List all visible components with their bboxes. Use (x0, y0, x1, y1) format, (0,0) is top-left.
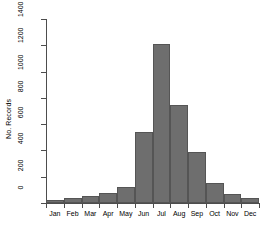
x-tick-label-oct: Oct (206, 210, 224, 217)
x-tick-label-sep: Sep (188, 210, 206, 217)
y-tick-label-text: 1400 (15, 0, 25, 39)
y-tick-label-800: 800 (0, 93, 39, 103)
x-tick-7 (170, 203, 171, 208)
plot-area (46, 19, 259, 203)
x-tick-10 (224, 203, 225, 208)
x-tick-label-apr: Apr (99, 210, 117, 217)
x-tick-label-aug: Aug (170, 210, 188, 217)
bar-may (117, 187, 135, 203)
y-tick-label-400: 400 (0, 145, 39, 155)
x-tick-2 (82, 203, 83, 208)
x-tick-label-jun: Jun (135, 210, 153, 217)
x-tick-11 (241, 203, 242, 208)
bar-oct (206, 183, 224, 203)
x-tick-5 (135, 203, 136, 208)
x-tick-3 (99, 203, 100, 208)
bar-apr (99, 193, 117, 203)
x-tick-label-dec: Dec (241, 210, 259, 217)
x-tick-1 (64, 203, 65, 208)
y-tick-label-1400: 1400 (0, 14, 39, 24)
x-tick-label-mar: Mar (82, 210, 100, 217)
bar-nov (224, 194, 242, 203)
x-tick-label-nov: Nov (224, 210, 242, 217)
bar-aug (170, 105, 188, 203)
bar-chart: No. Records 0200400600800100012001400 Ja… (0, 0, 266, 238)
x-tick-label-feb: Feb (64, 210, 82, 217)
x-tick-label-jan: Jan (46, 210, 64, 217)
y-tick-label-1000: 1000 (0, 67, 39, 77)
x-tick-label-jul: Jul (153, 210, 171, 217)
bar-mar (82, 196, 100, 203)
bar-jul (153, 44, 171, 203)
x-tick-6 (153, 203, 154, 208)
x-tick-4 (117, 203, 118, 208)
x-tick-9 (206, 203, 207, 208)
x-tick-label-may: May (117, 210, 135, 217)
x-tick-0 (46, 203, 47, 208)
y-tick-label-0: 0 (0, 198, 39, 208)
y-tick-label-1200: 1200 (0, 40, 39, 50)
bar-jun (135, 132, 153, 203)
y-tick-label-600: 600 (0, 119, 39, 129)
x-tick-8 (188, 203, 189, 208)
bar-sep (188, 152, 206, 203)
x-tick-12 (259, 203, 260, 208)
y-tick-label-200: 200 (0, 172, 39, 182)
